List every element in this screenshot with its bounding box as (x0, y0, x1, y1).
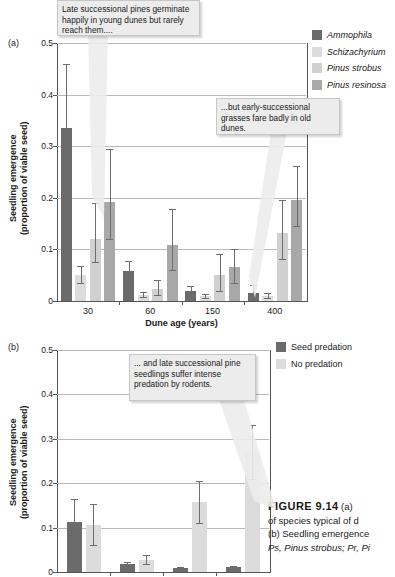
error-bar-cap (169, 270, 176, 271)
y-tick-mark (53, 301, 57, 302)
error-bar (220, 254, 221, 291)
error-bar (93, 504, 94, 545)
error-bar-cap (90, 545, 97, 546)
error-bar (146, 555, 147, 564)
error-bar-cap (230, 568, 237, 569)
y-tick-mark (53, 572, 57, 573)
caption-head-rest: (a) (341, 501, 353, 512)
panel-a-y-axis-line2: (proportion of viable seed) (19, 121, 29, 235)
y-tick-label: 0.3 (41, 142, 53, 151)
panel-b-legend: Seed predationNo predation (276, 342, 352, 375)
legend-swatch-icon (276, 342, 286, 352)
error-bar-cap (216, 291, 223, 292)
error-bar-cap (216, 254, 223, 255)
panel-a: (a) Seedling emergence (proportion of vi… (0, 0, 395, 322)
panel-b-legend-item: No predation (276, 359, 352, 369)
x-tick-label: 150 (205, 306, 220, 316)
y-tick-mark (53, 394, 57, 395)
x-tick-mark (216, 572, 217, 576)
error-bar-cap (143, 555, 150, 556)
error-bar (81, 266, 82, 284)
error-bar-cap (90, 504, 97, 505)
panel-a-legend-item: Ammophila (312, 30, 386, 40)
y-tick-mark (53, 483, 57, 484)
error-bar-cap (124, 562, 131, 563)
error-bar (172, 209, 173, 270)
x-tick-label: 400 (267, 306, 282, 316)
error-bar-cap (106, 239, 113, 240)
error-bar-cap (202, 294, 209, 295)
error-bar-cap (77, 283, 84, 284)
legend-label: Seed predation (291, 342, 352, 352)
y-tick-label: 0.4 (41, 390, 53, 399)
y-tick-mark (53, 95, 57, 96)
error-bar-cap (177, 570, 184, 571)
y-tick-mark (53, 198, 57, 199)
panel-a-letter: (a) (8, 38, 19, 48)
error-bar-cap (71, 499, 78, 500)
legend-swatch-icon (312, 63, 322, 73)
legend-label: Ammophila (327, 30, 372, 40)
x-tick-label: 60 (145, 306, 155, 316)
legend-swatch-icon (312, 80, 322, 90)
panel-b-legend-item: Seed predation (276, 342, 352, 352)
error-bar-cap (71, 547, 78, 548)
error-bar-cap (125, 278, 132, 279)
y-tick-mark (53, 439, 57, 440)
error-bar-cap (202, 298, 209, 299)
error-bar-cap (140, 292, 147, 293)
y-tick-mark (53, 249, 57, 250)
y-tick-mark (53, 528, 57, 529)
error-bar-cap (196, 523, 203, 524)
y-tick-label: 0.5 (41, 39, 53, 48)
y-tick-label: 0 (48, 297, 53, 306)
error-bar-cap (177, 567, 184, 568)
x-tick-mark (163, 572, 164, 576)
y-tick-mark (53, 350, 57, 351)
error-bar-cap (154, 295, 161, 296)
panel-a-y-axis-title: Seedling emergence (proportion of viable… (8, 108, 32, 248)
panel-b-y-axis-line2: (proportion of viable seed) (19, 405, 29, 519)
y-tick-label: 0.1 (41, 523, 53, 532)
error-bar-cap (154, 280, 161, 281)
y-tick-label: 0.5 (41, 346, 53, 355)
error-bar-cap (140, 297, 147, 298)
caption-line-3: Ps, Pinus strobus; Pr, Pi (268, 541, 395, 555)
error-bar-cap (187, 286, 194, 287)
gridline (57, 350, 269, 351)
callout-predation: ... and late successional pine seedlings… (129, 354, 256, 401)
x-tick-mark (182, 301, 183, 305)
error-bar-cap (92, 262, 99, 263)
y-tick-label: 0.3 (41, 435, 53, 444)
x-tick-mark (119, 301, 120, 305)
legend-label: Pinus strobus (327, 63, 382, 73)
error-bar-cap (230, 566, 237, 567)
legend-swatch-icon (312, 30, 322, 40)
x-tick-mark (244, 301, 245, 305)
panel-a-legend: AmmophilaSchizachyriumPinus strobusPinus… (312, 30, 386, 96)
legend-label: Schizachyrium (327, 47, 386, 57)
error-bar (74, 499, 75, 547)
y-tick-label: 0 (48, 568, 53, 577)
y-tick-mark (53, 43, 57, 44)
legend-label: No predation (291, 359, 343, 369)
panel-b-y-axis-line1: Seedling emergence (8, 418, 18, 506)
y-tick-mark (53, 146, 57, 147)
caption-line-2: (b) Seedling emergence (268, 527, 395, 541)
error-bar (129, 261, 130, 278)
legend-label: Pinus resinosa (327, 80, 386, 90)
error-bar-cap (143, 564, 150, 565)
panel-b: (b) Seedling emergence (proportion of vi… (0, 322, 395, 566)
panel-b-letter: (b) (8, 342, 19, 352)
error-bar (191, 286, 192, 294)
error-bar-cap (187, 294, 194, 295)
callout-young-dunes: Late successional pines germinate happil… (57, 0, 200, 36)
x-tick-label: 30 (83, 306, 93, 316)
panel-a-legend-item: Pinus strobus (312, 63, 386, 73)
callout-old-dunes: ...but early-successional grasses fare b… (216, 98, 340, 135)
callout-young-dunes-tail (60, 28, 180, 218)
error-bar-cap (124, 567, 131, 568)
error-bar (158, 280, 159, 295)
y-tick-label: 0.2 (41, 194, 53, 203)
